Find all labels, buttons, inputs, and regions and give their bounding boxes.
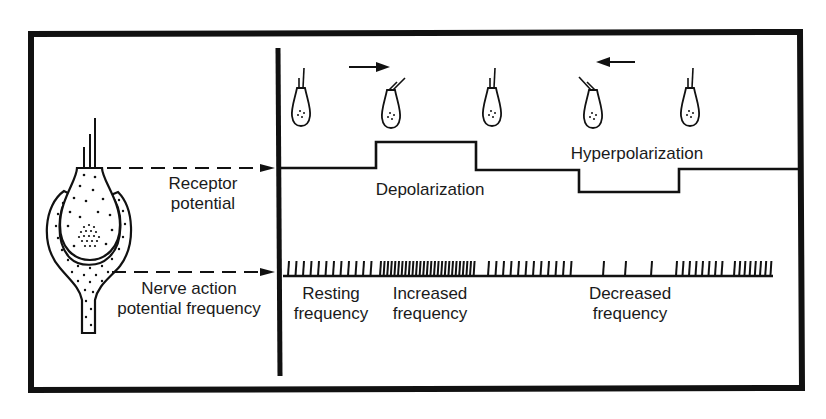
hair-cell-rest-1-icon — [292, 68, 310, 126]
nerve-label-line2: potential frequency — [104, 299, 274, 319]
nerve-label-line1: Nerve action — [104, 279, 274, 299]
depolarization-text: Depolarization — [360, 180, 500, 200]
hyperpolarization-text: Hyperpolarization — [552, 144, 722, 164]
increased-frequency-label: Increased frequency — [380, 284, 480, 324]
receptor-label-line2: potential — [148, 194, 258, 214]
diagram-canvas — [0, 0, 826, 419]
decreased-line1: Decreased — [580, 284, 680, 304]
nerve-action-arrow — [112, 268, 275, 276]
depolarization-label: Depolarization — [360, 180, 500, 200]
rightward-arrow-icon — [349, 62, 390, 72]
hyperpolarization-label: Hyperpolarization — [552, 144, 722, 164]
resting-frequency-label: Resting frequency — [286, 284, 376, 324]
outer-frame-border — [31, 32, 802, 390]
hair-cell-rest-2-icon — [483, 68, 501, 126]
leftward-arrow-icon — [596, 57, 635, 67]
hair-cell-deflected-right-icon — [382, 78, 405, 128]
panel-divider — [278, 48, 280, 376]
action-potential-spikes — [288, 261, 771, 276]
hair-cell-deflected-left-icon — [579, 77, 602, 128]
decreased-line2: frequency — [580, 304, 680, 324]
resting-line1: Resting — [286, 284, 376, 304]
receptor-potential-label: Receptor potential — [148, 174, 258, 214]
receptor-potential-trace — [281, 142, 800, 192]
resting-line2: frequency — [286, 304, 376, 324]
receptor-label-line1: Receptor — [148, 174, 258, 194]
nerve-action-label: Nerve action potential frequency — [104, 279, 274, 319]
receptor-potential-arrow — [107, 164, 275, 172]
decreased-frequency-label: Decreased frequency — [580, 284, 680, 324]
increased-line1: Increased — [380, 284, 480, 304]
receptor-potential-diagram: Receptor potential Nerve action potentia… — [0, 0, 826, 419]
hair-cell-rest-3-icon — [681, 68, 699, 126]
increased-line2: frequency — [380, 304, 480, 324]
